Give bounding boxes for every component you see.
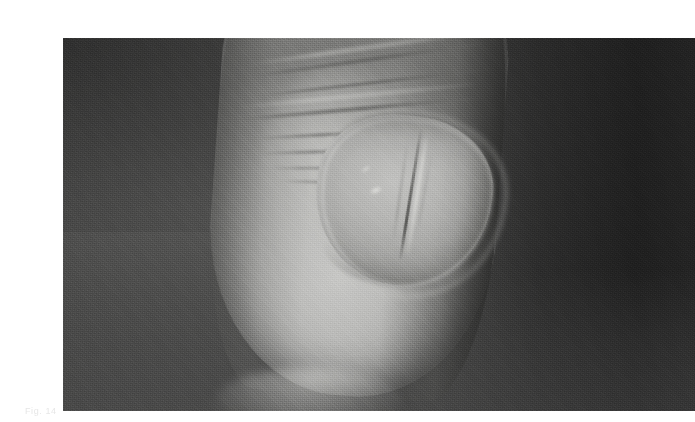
fingertip-photograph bbox=[63, 38, 695, 411]
finger-body bbox=[199, 38, 517, 405]
figure-caption: Fig. 14 bbox=[25, 404, 145, 418]
nail-plate bbox=[306, 105, 501, 295]
